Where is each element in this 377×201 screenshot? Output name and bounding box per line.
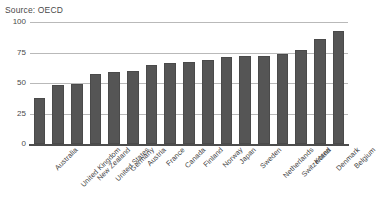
bar	[52, 85, 64, 144]
bar	[314, 39, 326, 144]
bar-slot	[52, 22, 64, 144]
bar	[183, 62, 195, 144]
x-tick-label: Sweden	[259, 146, 283, 170]
bar-slot	[146, 22, 158, 144]
bar-slot	[258, 22, 270, 144]
bar-slot	[164, 22, 176, 144]
x-tick-label: France	[164, 146, 186, 168]
bar-slot	[314, 22, 326, 144]
bar	[108, 72, 120, 144]
source-note: Source: OECD	[5, 5, 63, 15]
bar	[258, 56, 270, 144]
bar-slot	[108, 22, 120, 144]
bar	[90, 74, 102, 144]
x-tick-label: Australia	[54, 146, 80, 172]
bar	[295, 50, 307, 144]
bar-slot	[71, 22, 83, 144]
bar-slot	[183, 22, 195, 144]
bar	[333, 31, 345, 144]
y-tick-label: 100	[2, 18, 26, 26]
bar-slot	[239, 22, 251, 144]
y-tick-label: 50	[2, 79, 26, 87]
bar	[221, 57, 233, 144]
x-axis-tick-labels: AustraliaUnited KingdomNew ZealandUnited…	[30, 146, 348, 201]
bar	[202, 60, 214, 144]
bar	[127, 71, 139, 144]
bar-slot	[34, 22, 46, 144]
bar	[239, 56, 251, 144]
bar	[277, 54, 289, 144]
bar-slot	[333, 22, 345, 144]
bar	[34, 98, 46, 144]
x-tick-label: Korea	[313, 146, 333, 166]
bar-slot	[90, 22, 102, 144]
y-tick-label: 0	[2, 140, 26, 148]
y-tick-label: 75	[2, 49, 26, 57]
bar	[71, 84, 83, 144]
bar-slot	[277, 22, 289, 144]
bar-slot	[202, 22, 214, 144]
bar	[164, 63, 176, 144]
y-tick-label: 25	[2, 110, 26, 118]
bar-slot	[221, 22, 233, 144]
plot-area	[30, 22, 348, 144]
bar-slot	[127, 22, 139, 144]
bar-slot	[295, 22, 307, 144]
bar	[146, 65, 158, 144]
